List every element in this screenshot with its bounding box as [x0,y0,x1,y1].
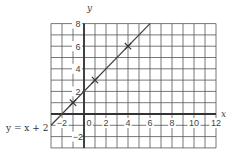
y-axis-label: y [86,3,93,13]
y-tick-label: 8 [75,19,80,29]
x-tick-label: 0 [86,118,91,128]
y-tick-label: −2 [73,132,83,142]
x-tick-label: 12 [211,118,221,128]
equation-label: y = x + 2 [5,123,48,133]
y-tick-label: 4 [75,64,80,74]
x-tick-label: −2 [57,118,67,128]
y-tick-label: 6 [75,42,80,52]
line-y-equals-x-plus-2 [51,24,150,126]
x-tick-label: 4 [125,118,130,128]
x-tick-label: 10 [189,118,199,128]
graph: −2024681012−22468 x y y = x + 2 [0,0,241,160]
x-tick-label: 2 [103,118,108,128]
line-series [51,24,150,126]
x-tick-label: 6 [147,118,152,128]
x-axis-label: x [221,109,226,119]
x-tick-label: 8 [169,118,174,128]
